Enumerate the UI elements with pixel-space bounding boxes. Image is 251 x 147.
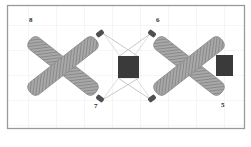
node-label-6: 6 (156, 17, 160, 24)
block-right[interactable] (216, 55, 233, 76)
node-label-8: 8 (29, 17, 33, 24)
diagram-svg (0, 0, 251, 147)
node-label-5: 5 (221, 102, 225, 109)
block-center[interactable] (118, 56, 139, 78)
node-label-7: 7 (94, 103, 98, 110)
figure-canvas: 8 6 7 5 (0, 0, 251, 147)
